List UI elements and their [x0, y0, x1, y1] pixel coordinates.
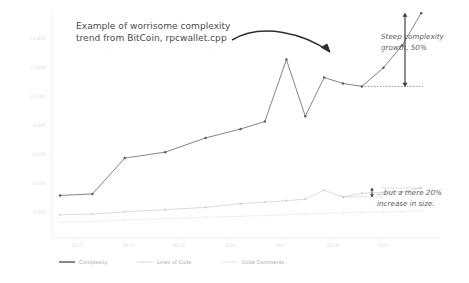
page-title: Example of worrisome complexity trend fr…	[76, 21, 231, 43]
data-point	[361, 192, 363, 194]
legend-item-complexity[interactable]: Complexity	[59, 259, 108, 266]
chart-container: 14,000 12,000 10,000 8,000 6,000 4,000 2…	[0, 0, 469, 283]
data-point	[323, 212, 325, 214]
data-point	[342, 82, 345, 85]
y-tick-label: 4,000	[33, 181, 46, 186]
data-point	[361, 211, 363, 213]
complexity-trend-chart: 14,000 12,000 10,000 8,000 6,000 4,000 2…	[0, 0, 469, 283]
data-point	[323, 76, 326, 79]
data-point	[91, 213, 93, 215]
series-layer	[59, 12, 423, 223]
x-axis-ticks	[77, 238, 383, 241]
chart-title-line2: trend from BitCoin, rpcwallet.cpp	[76, 33, 227, 43]
annotation-growth-line1: Steep complexity	[381, 32, 444, 41]
data-point	[91, 193, 94, 196]
data-point	[420, 210, 422, 212]
y-tick-label: 14,000	[30, 36, 46, 41]
data-point	[124, 219, 126, 221]
data-point	[124, 211, 126, 213]
data-point	[59, 214, 61, 216]
annotation-size-line2: increase in size.	[377, 199, 435, 208]
x-tick-label: 2013	[71, 243, 83, 248]
y-tick-label: 8,000	[33, 123, 46, 128]
data-point	[164, 209, 166, 211]
chart-title-line1: Example of worrisome complexity	[76, 21, 231, 31]
x-tick-label: 2017	[275, 243, 287, 248]
data-point	[205, 216, 207, 218]
data-point	[264, 201, 266, 203]
chart-legend: Complexity Lines of Code Code Comments	[59, 259, 285, 266]
data-point	[285, 58, 288, 61]
data-point	[264, 215, 266, 217]
data-point	[304, 213, 306, 215]
data-point	[382, 211, 384, 213]
x-tick-label: 2016	[224, 243, 236, 248]
legend-label: Code Comments	[242, 259, 285, 265]
data-point	[304, 198, 306, 200]
data-point	[204, 137, 207, 140]
legend-label: Complexity	[79, 259, 108, 266]
data-point	[264, 120, 267, 123]
y-axis-ticks	[50, 38, 53, 212]
data-point	[382, 67, 385, 70]
data-point	[323, 189, 325, 191]
data-point	[304, 115, 307, 118]
x-tick-label: 2015	[173, 243, 185, 248]
data-point	[342, 212, 344, 214]
y-tick-label: 6,000	[33, 152, 46, 157]
y-tick-label: 2,000	[33, 210, 46, 215]
series-code-comments	[59, 210, 422, 223]
data-point	[59, 194, 62, 197]
data-point	[240, 215, 242, 217]
annotation-growth: Steep complexity growth, 50%	[381, 32, 444, 52]
data-point	[240, 203, 242, 205]
y-tick-label: 10,000	[30, 94, 46, 99]
x-axis-labels: 2013 2014 2015 2016 2017 2018 2019	[71, 243, 389, 248]
data-point	[91, 221, 93, 223]
y-tick-label: 12,000	[30, 65, 46, 70]
annotation-size-line1: ...but a mere 20%	[377, 188, 442, 197]
data-point	[285, 200, 287, 202]
x-tick-label: 2019	[377, 243, 389, 248]
series-line	[60, 188, 421, 215]
legend-item-code-comments[interactable]: Code Comments	[222, 259, 285, 265]
legend-label: Lines of Code	[157, 259, 191, 265]
annotation-growth-line2: growth, 50%	[381, 43, 427, 52]
data-point	[164, 151, 167, 154]
y-axis-labels: 14,000 12,000 10,000 8,000 6,000 4,000 2…	[30, 36, 46, 215]
annotation-size: ...but a mere 20% increase in size.	[377, 188, 442, 208]
x-tick-label: 2018	[326, 243, 338, 248]
data-point	[239, 128, 242, 131]
data-point	[59, 221, 61, 223]
callout-arrow-icon	[232, 31, 330, 52]
x-tick-label: 2014	[122, 243, 134, 248]
data-point	[164, 218, 166, 220]
data-point	[205, 206, 207, 208]
data-point	[124, 157, 127, 160]
series-lines-of-code	[59, 187, 422, 216]
data-point	[285, 214, 287, 216]
legend-item-lines-of-code[interactable]: Lines of Code	[137, 259, 191, 265]
data-point	[401, 211, 403, 213]
